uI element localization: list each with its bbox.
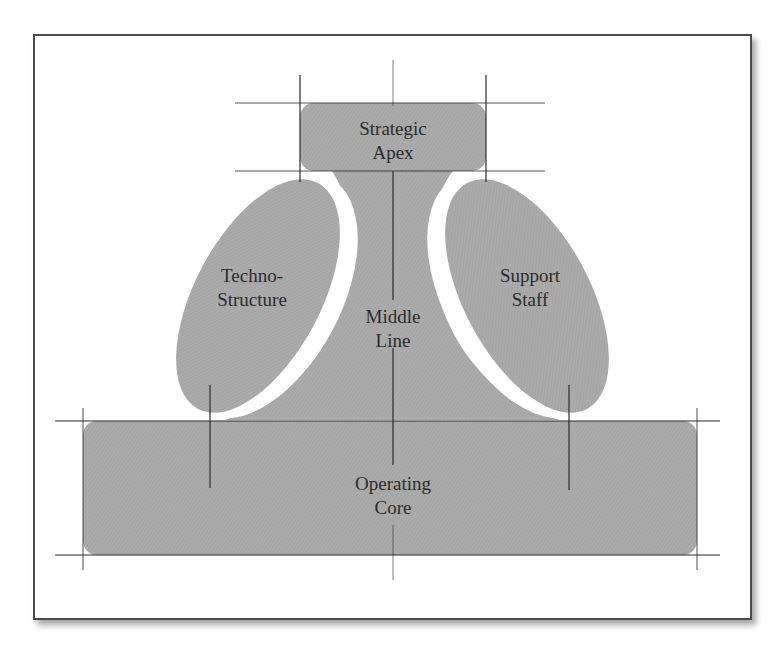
middle-line-label-1: Middle [366, 306, 421, 327]
techno-structure-label-1: Techno- [221, 265, 283, 286]
strategic-apex-label-1: Strategic [359, 118, 427, 139]
operating-core-label-1: Operating [355, 473, 431, 494]
strategic-apex-label-2: Apex [372, 142, 414, 163]
middle-line-label-2: Line [376, 330, 411, 351]
support-staff-label-1: Support [500, 265, 561, 286]
support-staff-label-2: Staff [512, 289, 549, 310]
techno-structure-label-2: Structure [217, 289, 287, 310]
mintzberg-diagram: Strategic Apex Techno- Structure Middle … [0, 0, 779, 648]
operating-core-label-2: Core [375, 497, 412, 518]
